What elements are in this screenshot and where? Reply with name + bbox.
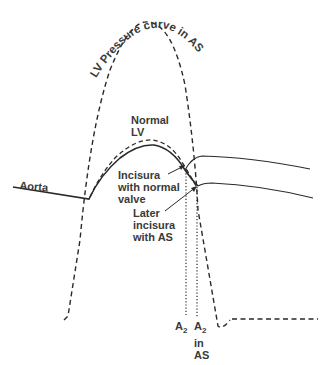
incisura-normal-line1: Incisura — [118, 169, 180, 181]
a2-as-line3: AS — [194, 349, 209, 361]
incisura-as-line1: Later — [133, 207, 175, 219]
aorta-label-text: Aorta — [19, 179, 49, 193]
a2-as-subscript: 2 — [202, 326, 206, 335]
aorta-as-curve — [198, 183, 313, 198]
aorta-label: Aorta — [19, 179, 49, 193]
a2-as-letter: A — [194, 320, 202, 332]
a2-letter: A — [175, 320, 183, 332]
normal-lv-label-line1: Normal — [131, 114, 169, 126]
a2-label: A2 — [175, 320, 187, 337]
incisura-as-label: Later incisura with AS — [133, 207, 175, 243]
incisura-as-line2: incisura — [133, 219, 175, 231]
normal-lv-label: Normal LV — [131, 114, 169, 138]
a2-in-as-label: A2 in AS — [194, 320, 209, 361]
a2-as-line2: in — [194, 337, 209, 349]
incisura-normal-line3: valve — [118, 193, 180, 205]
incisura-normal-line2: with normal — [118, 181, 180, 193]
normal-lv-label-line2: LV — [131, 126, 169, 138]
incisura-normal-label: Incisura with normal valve — [118, 169, 180, 205]
a2-subscript: 2 — [183, 326, 187, 335]
incisura-as-line3: with AS — [133, 231, 175, 243]
lv-pressure-as-label: LV Pressure curve in AS — [88, 18, 207, 80]
aorta-normal-valve-curve — [185, 156, 310, 170]
arrowhead-icon — [191, 186, 197, 192]
